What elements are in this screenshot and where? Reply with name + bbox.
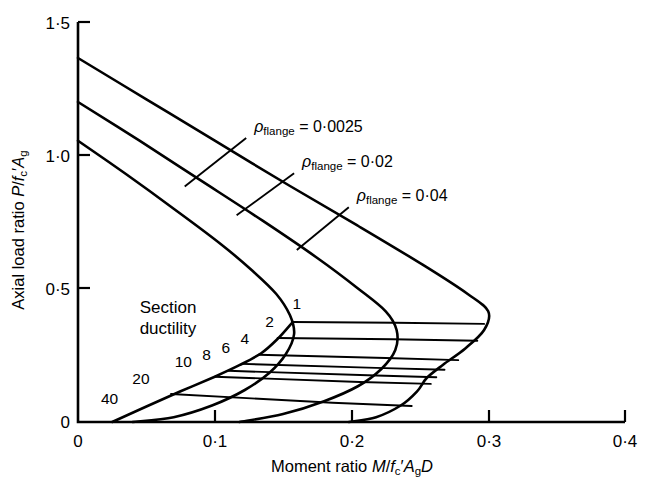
section-ductility-line2: ductility — [140, 319, 197, 338]
ductility-contour-1 — [293, 322, 484, 324]
y-axis-title: Axial load ratio P/fc′Ag — [9, 150, 29, 309]
interaction-curve-2 — [78, 58, 489, 422]
y-tick-label-1.0: 1·0 — [45, 147, 70, 166]
x-tick-label-0.4: 0·4 — [613, 432, 638, 451]
ductility-contour-10 — [215, 377, 431, 384]
ductility-contour-2 — [278, 338, 478, 341]
svg-text:Axial load ratio P/fc′Ag: Axial load ratio P/fc′Ag — [9, 150, 29, 309]
annotation-leader-0 — [185, 138, 247, 187]
y-tick-label-0: 0 — [61, 413, 70, 432]
curve-annotations: ρflange = 0·0025ρflange = 0·02ρflange = … — [185, 118, 448, 250]
x-tick-label-0.3: 0·3 — [477, 432, 502, 451]
ductility-contour-8 — [228, 371, 436, 377]
ductility-value-label-6: 6 — [221, 339, 230, 356]
x-tick-label-0.2: 0·2 — [340, 432, 365, 451]
svg-text:Moment ratio M/fc′AgD: Moment ratio M/fc′AgD — [271, 457, 433, 477]
x-axis-title: Moment ratio M/fc′AgD — [271, 457, 433, 477]
ductility-value-label-8: 8 — [202, 346, 211, 363]
ductility-contour-20 — [171, 394, 412, 406]
interaction-diagram-svg: 1·5 1·0 0·5 0 0 0·1 0·2 0·3 0·4 Moment r… — [0, 0, 655, 480]
ductility-value-label-10: 10 — [175, 353, 193, 370]
section-ductility-line1: Section — [140, 298, 197, 317]
ductility-value-label-1: 1 — [292, 295, 301, 312]
interaction-curve-0 — [78, 141, 294, 422]
x-tick-labels: 0 0·1 0·2 0·3 0·4 — [73, 432, 637, 451]
rho-flange-label-1: ρflange = 0·02 — [301, 153, 393, 172]
ductility-contour-4 — [259, 355, 459, 360]
rho-flange-label-0: ρflange = 0·0025 — [253, 118, 363, 137]
rho-flange-label-2: ρflange = 0·04 — [356, 187, 448, 206]
x-tick-label-0: 0 — [73, 432, 82, 451]
y-tick-label-0.5: 0·5 — [45, 280, 70, 299]
ductility-value-label-20: 20 — [132, 370, 150, 387]
y-tick-labels: 1·5 1·0 0·5 0 — [45, 14, 70, 432]
ductility-value-label-40: 40 — [101, 390, 119, 407]
section-ductility-label: Section ductility — [140, 298, 197, 338]
annotation-leader-1 — [237, 173, 295, 215]
ductility-value-label-2: 2 — [265, 313, 274, 330]
plot-layer: 12468102040 — [78, 58, 489, 422]
x-tick-label-0.1: 0·1 — [203, 432, 228, 451]
annotation-leader-2 — [297, 207, 349, 250]
ductility-value-label-4: 4 — [240, 330, 249, 347]
y-tick-label-1.5: 1·5 — [45, 14, 70, 33]
chart-figure: 1·5 1·0 0·5 0 0 0·1 0·2 0·3 0·4 Moment r… — [0, 0, 655, 480]
